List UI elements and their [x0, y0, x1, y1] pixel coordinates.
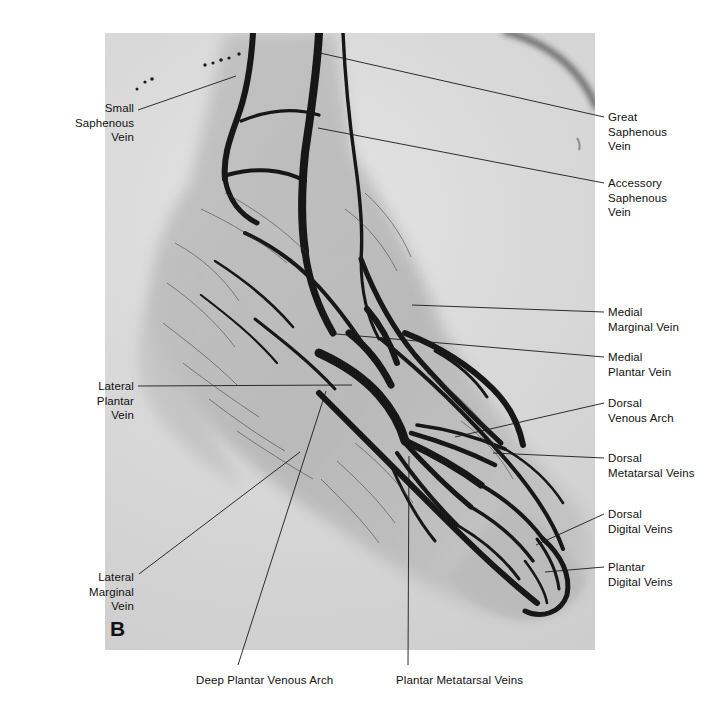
label-medial-plantar-vein: Medial Plantar Vein — [608, 350, 708, 379]
label-lateral-plantar-vein: Lateral Plantar Vein — [46, 379, 134, 423]
label-small-saphenous-vein: Small Saphenous Vein — [46, 101, 134, 145]
label-dorsal-metatarsal-veins: Dorsal Metatarsal Veins — [608, 451, 712, 480]
label-plantar-metatarsal-veins: Plantar Metatarsal Veins — [396, 673, 556, 688]
radiograph-image — [105, 33, 595, 650]
label-accessory-saphenous-vein: Accessory Saphenous Vein — [608, 176, 708, 220]
film-grain-texture — [105, 33, 595, 650]
label-plantar-digital-veins: Plantar Digital Veins — [608, 560, 708, 589]
label-medial-marginal-vein: Medial Marginal Vein — [608, 305, 708, 334]
label-great-saphenous-vein: Great Saphenous Vein — [608, 110, 708, 154]
figure-venogram-foot: B Small Saphenous VeinGreat Saphenous Ve… — [0, 0, 712, 711]
label-dorsal-venous-arch: Dorsal Venous Arch — [608, 396, 708, 425]
panel-letter-b: B — [110, 617, 126, 641]
label-lateral-marginal-vein: Lateral Marginal Vein — [46, 570, 134, 614]
label-dorsal-digital-veins: Dorsal Digital Veins — [608, 507, 708, 536]
label-deep-plantar-venous-arch: Deep Plantar Venous Arch — [196, 673, 356, 688]
